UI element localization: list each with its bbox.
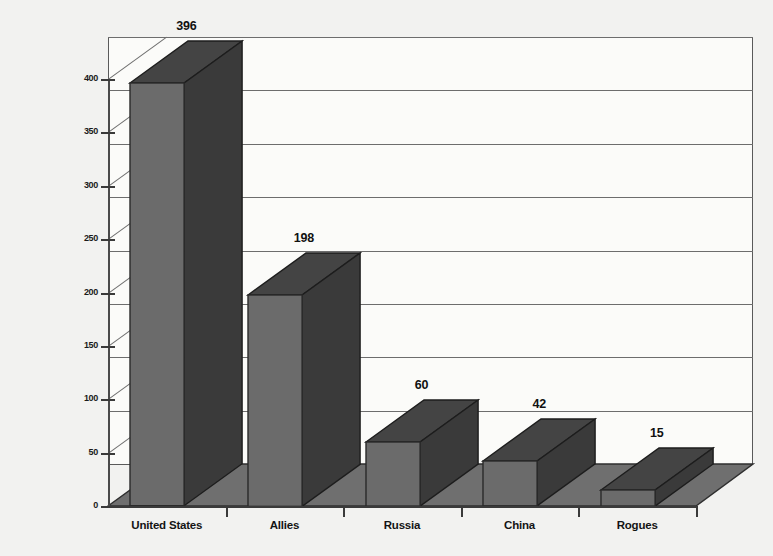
y-axis-tick [101,186,115,188]
y-axis-tick [101,293,115,295]
x-axis-tick [226,506,228,517]
y-axis-tick [101,79,115,81]
x-axis-category-label: China [504,519,535,531]
x-axis-category-label: Russia [384,519,421,531]
y-axis-tick-label: 0 [52,500,98,510]
bar-value-label: 15 [650,426,664,440]
y-axis-tick-label: 50 [52,447,98,457]
bar-value-label: 42 [532,397,546,411]
y-axis-tick-label: 200 [52,287,98,297]
bar-3d-faces [483,419,599,510]
x-axis-category-label: Allies [270,519,299,531]
y-axis-tick-label: 350 [52,126,98,136]
bar-value-label: 198 [294,231,314,245]
y-axis-tick [101,453,115,455]
bar [483,419,537,506]
bar-value-label: 396 [176,19,196,33]
y-axis-tick [101,399,115,401]
gridline [108,37,753,38]
x-axis-tick [696,506,698,517]
bar-3d-faces [366,400,482,510]
y-axis-tick [101,346,115,348]
y-axis-tick-label: 400 [52,73,98,83]
x-axis-tick [343,506,345,517]
y-axis-tick-label: 150 [52,340,98,350]
y-axis-tick-label: 300 [52,180,98,190]
y-axis-tick-label: 250 [52,233,98,243]
bar [366,400,420,506]
bar-value-label: 60 [415,378,429,392]
bar-3d-faces [248,253,364,510]
y-axis-tick [101,132,115,134]
x-axis-category-label: United States [131,519,202,531]
bar [248,253,302,506]
bar-3d-faces [601,448,717,510]
y-axis-tick-label: 100 [52,393,98,403]
x-axis-tick [578,506,580,517]
bar [130,41,184,506]
x-axis-line [108,506,696,508]
bar-3d-faces [130,41,246,510]
y-axis-tick [101,239,115,241]
bar [601,448,655,506]
bar-chart: 050100150200250300350400 United StatesAl… [0,0,773,556]
x-axis-category-label: Rogues [617,519,658,531]
x-axis-tick [461,506,463,517]
